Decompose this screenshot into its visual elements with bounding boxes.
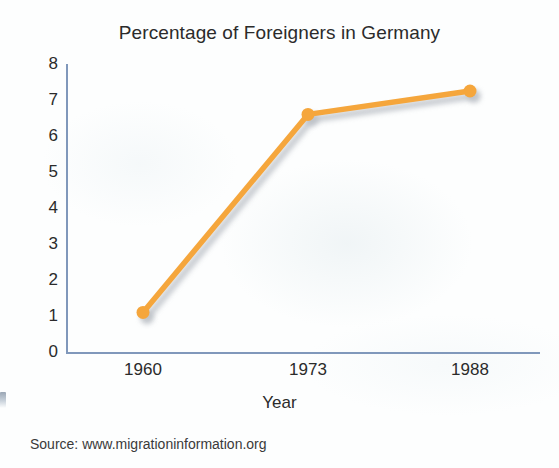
data-point-marker — [137, 306, 150, 319]
series-markers — [137, 85, 477, 319]
series-shadow — [140, 89, 481, 324]
chart-figure: Percentage of Foreigners in Germany 8765… — [0, 0, 559, 468]
data-point-marker — [464, 85, 477, 98]
data-point-marker — [302, 108, 315, 121]
source-note: Source: www.migrationinformation.org — [30, 436, 267, 452]
x-axis-title: Year — [0, 393, 559, 413]
